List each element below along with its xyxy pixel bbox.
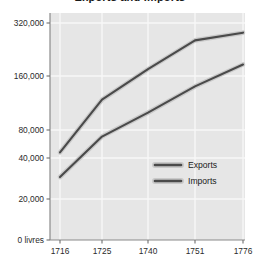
y-axis-tick-labels: 320,000160,00080,00040,00020,0000 livres bbox=[14, 18, 45, 245]
x-tick-label: 1716 bbox=[51, 246, 70, 256]
x-tick-label: 1740 bbox=[139, 246, 158, 256]
chart-svg: 320,000160,00080,00040,00020,0000 livres… bbox=[0, 0, 260, 267]
legend-label-exports: Exports bbox=[188, 160, 217, 170]
y-tick-label: 0 livres bbox=[17, 235, 44, 245]
y-tick-label: 320,000 bbox=[14, 18, 45, 28]
x-tick-label: 1776 bbox=[234, 246, 253, 256]
x-tick-label: 1751 bbox=[186, 246, 205, 256]
chart-container: Exports and Imports 320,000160,00080,000… bbox=[0, 0, 260, 267]
chart-title-clipped: Exports and Imports bbox=[0, 0, 260, 8]
y-tick-label: 40,000 bbox=[18, 153, 44, 163]
y-tick-label: 20,000 bbox=[18, 194, 44, 204]
y-tick-label: 80,000 bbox=[18, 125, 44, 135]
y-tick-label: 160,000 bbox=[14, 71, 45, 81]
legend-label-imports: Imports bbox=[188, 176, 217, 186]
x-tick-label: 1725 bbox=[93, 246, 112, 256]
x-axis-tick-labels: 17161725174017511776 bbox=[51, 246, 253, 256]
chart-title: Exports and Imports bbox=[75, 0, 186, 3]
